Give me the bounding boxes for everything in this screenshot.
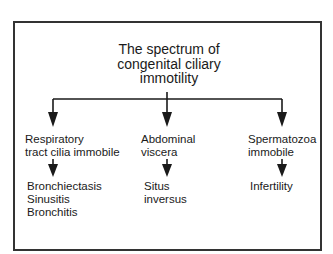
cause-line: tract cilia immobile (25, 146, 120, 159)
cause-line: immobile (248, 146, 316, 159)
cause-spermatozoa: Spermatozoa immobile (248, 133, 316, 159)
cause-line: Respiratory (25, 133, 120, 146)
arrow-down-icon (277, 112, 287, 127)
effect-respiratory: Bronchiectasis Sinusitis Bronchitis (27, 180, 102, 219)
cause-line: Spermatozoa (248, 133, 316, 146)
cause-abdominal: Abdominal viscera (141, 133, 195, 159)
effect-line: Sinusitis (27, 193, 102, 206)
arrow-down-icon (162, 164, 172, 177)
effect-line: inversus (144, 193, 187, 206)
arrow-down-icon (48, 112, 58, 127)
effect-line: Infertility (250, 180, 293, 193)
effect-line: Bronchiectasis (27, 180, 102, 193)
arrow-down-icon (48, 164, 58, 177)
effect-abdominal: Situs inversus (144, 180, 187, 206)
cause-respiratory: Respiratory tract cilia immobile (25, 133, 120, 159)
effect-spermatozoa: Infertility (250, 180, 293, 193)
arrow-down-icon (162, 112, 172, 127)
cause-line: viscera (141, 146, 195, 159)
effect-line: Situs (144, 180, 187, 193)
effect-line: Bronchitis (27, 206, 102, 219)
cause-line: Abdominal (141, 133, 195, 146)
arrow-down-icon (277, 164, 287, 177)
